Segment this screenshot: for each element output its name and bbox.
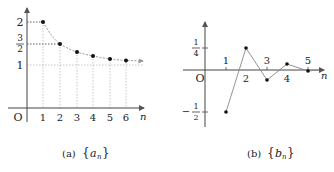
svg-text:2: 2 [243, 73, 249, 84]
svg-text:a: a [90, 147, 97, 160]
svg-text:3: 3 [17, 33, 23, 43]
svg-text:1: 1 [193, 102, 198, 111]
svg-text:{: { [267, 146, 275, 160]
caption-a: (a) { a n } [62, 146, 110, 161]
svg-text:}: } [287, 146, 295, 160]
chart-b: 1 4 − 1 2 O 1 2 3 4 5 n (b) { b n } [182, 22, 328, 161]
svg-text:6: 6 [123, 112, 129, 123]
guide-lines-a [27, 22, 143, 108]
x-tick-labels-a: 1 2 3 4 5 6 [40, 112, 129, 123]
svg-text:5: 5 [305, 55, 311, 66]
y-tick-label: 1 [17, 59, 24, 72]
svg-text:4: 4 [193, 49, 198, 58]
svg-text:{: { [82, 146, 90, 160]
svg-text:4: 4 [284, 73, 290, 84]
svg-text:1: 1 [223, 55, 229, 66]
chart-a: 2 3 2 1 O 1 2 3 4 5 6 n (a) { a n } [8, 8, 146, 161]
svg-text:(b): (b) [247, 148, 261, 159]
figure-canvas: 2 3 2 1 O 1 2 3 4 5 6 n (a) { a n } [0, 0, 334, 172]
x-axis-label-a: n [140, 111, 146, 122]
svg-text:b: b [275, 147, 282, 160]
svg-text:3: 3 [74, 112, 80, 123]
svg-text:1: 1 [40, 112, 46, 123]
x-axis-label-b: n [321, 70, 327, 81]
svg-text:5: 5 [107, 112, 113, 123]
y-tick-label: 2 [17, 16, 24, 29]
y-tick-label-three-halves: 3 2 [16, 33, 24, 54]
svg-text:2: 2 [17, 44, 23, 54]
svg-text:2: 2 [193, 113, 198, 122]
y-tick-label-minus-half: − 1 2 [182, 102, 200, 122]
data-points-a [41, 20, 128, 63]
caption-b: (b) { b n } [247, 146, 295, 161]
svg-text:2: 2 [57, 112, 63, 123]
svg-text:(a): (a) [62, 148, 76, 159]
svg-text:1: 1 [193, 38, 198, 47]
y-tick-label-quarter: 1 4 [192, 38, 200, 58]
svg-text:3: 3 [264, 55, 270, 66]
svg-text:}: } [102, 146, 110, 160]
origin-label: O [195, 72, 204, 85]
svg-text:−: − [182, 106, 190, 117]
origin-label: O [13, 111, 22, 124]
svg-text:4: 4 [90, 112, 96, 123]
